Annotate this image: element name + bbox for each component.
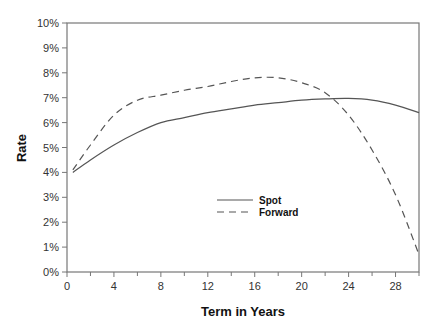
y-axis-title: Rate <box>14 134 29 162</box>
y-tick-label: 0% <box>43 266 59 278</box>
plot-frame <box>67 23 419 272</box>
y-tick-label: 8% <box>43 67 59 79</box>
legend-forward-label: Forward <box>259 207 298 218</box>
forward-rate-line <box>73 77 419 254</box>
legend-spot-label: Spot <box>259 195 282 206</box>
y-tick-label: 10% <box>37 17 59 29</box>
legend: Spot Forward <box>217 195 298 218</box>
x-tick-label: 0 <box>64 280 70 292</box>
rate-term-chart: 0%1%2%3%4%5%6%7%8%9%10% 0481216202428 Sp… <box>0 0 439 332</box>
y-tick-label: 1% <box>43 241 59 253</box>
y-tick-label: 4% <box>43 166 59 178</box>
y-axis: 0%1%2%3%4%5%6%7%8%9%10% <box>37 17 67 278</box>
spot-rate-line <box>73 98 419 172</box>
x-axis-title: Term in Years <box>201 304 285 319</box>
x-tick-label: 16 <box>249 280 261 292</box>
y-tick-label: 5% <box>43 142 59 154</box>
y-tick-label: 2% <box>43 216 59 228</box>
y-tick-label: 6% <box>43 117 59 129</box>
x-tick-label: 8 <box>158 280 164 292</box>
x-tick-label: 4 <box>111 280 117 292</box>
series-layer <box>73 77 419 254</box>
y-tick-label: 9% <box>43 42 59 54</box>
x-tick-label: 20 <box>296 280 308 292</box>
x-tick-label: 24 <box>342 280 354 292</box>
y-tick-label: 3% <box>43 191 59 203</box>
x-tick-label: 12 <box>202 280 214 292</box>
x-tick-label: 28 <box>389 280 401 292</box>
y-tick-label: 7% <box>43 92 59 104</box>
x-axis: 0481216202428 <box>64 272 419 292</box>
